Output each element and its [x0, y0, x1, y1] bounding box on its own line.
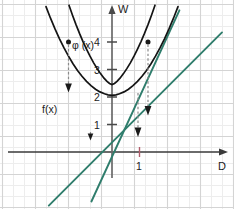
x-tick-label-1: 1	[136, 160, 142, 172]
y-tick-label-1: 1	[94, 119, 100, 131]
tangent-line-shallow	[49, 32, 222, 205]
y-tick-label-2: 2	[94, 91, 100, 103]
y-tick-label-4: 4	[94, 36, 100, 48]
x-axis-arrowhead	[219, 148, 228, 155]
grid-minor-vertical	[3, 0, 234, 209]
phi-function-label: φ (x)	[72, 39, 94, 51]
axes-layer	[8, 5, 228, 178]
x-axis-name: D	[218, 160, 226, 172]
y-axis-name: W	[118, 3, 129, 15]
plot-canvas: 1 2 3 4 1 W D	[0, 0, 234, 209]
y-axis-arrowhead	[108, 5, 115, 14]
f-function-label: f(x)	[42, 103, 57, 115]
grid-major-vertical	[3, 0, 234, 209]
math-figure: 1 2 3 4 1 W D	[0, 0, 234, 209]
tangent-line-steep	[91, 10, 179, 201]
grid-layer	[0, 0, 234, 209]
